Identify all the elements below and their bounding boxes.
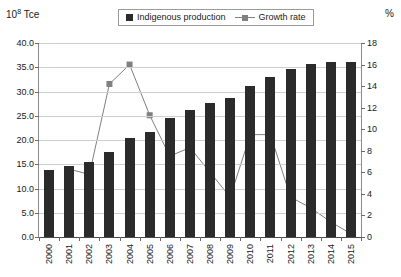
x-axis-tick-label: 2013 — [306, 244, 316, 264]
y-axis-right-tick-label: 10 — [367, 124, 377, 134]
x-axis-tick-label: 2006 — [165, 244, 175, 264]
y-axis-left-tick-label: 0.0 — [21, 232, 34, 242]
bar — [165, 118, 175, 237]
y-axis-right-tick-label: 4 — [367, 189, 372, 199]
y-axis-left-tick-label: 10.0 — [16, 184, 34, 194]
y-axis-left-tick-label: 25.0 — [16, 111, 34, 121]
x-axis-tick-mark — [361, 237, 362, 241]
y-axis-right-tick-label: 18 — [367, 38, 377, 48]
y-axis-left-tick-mark — [35, 67, 39, 68]
x-axis-tick-label: 2001 — [64, 244, 74, 264]
growth-rate-marker — [106, 81, 112, 87]
indigenous-production-chart: 108 Tce % Indigenous production Growth r… — [0, 0, 401, 277]
chart-legend: Indigenous production Growth rate — [118, 9, 314, 26]
y-axis-left-tick-label: 35.0 — [16, 62, 34, 72]
y-axis-right-tick-label: 8 — [367, 146, 372, 156]
y-axis-right-tick-label: 0 — [367, 232, 372, 242]
plot-area: 0.05.010.015.020.025.030.035.040.0024681… — [38, 43, 362, 238]
x-axis-tick-label: 2007 — [185, 244, 195, 264]
x-axis-tick-mark — [240, 237, 241, 241]
y-axis-right-tick-mark — [361, 172, 365, 173]
legend-item-indigenous-production: Indigenous production — [126, 13, 226, 22]
bar — [306, 64, 316, 237]
y-axis-right-tick-mark — [361, 86, 365, 87]
gridline — [39, 43, 361, 44]
y-axis-right-tick-label: 14 — [367, 81, 377, 91]
y-axis-left-tick-mark — [35, 116, 39, 117]
bar — [145, 132, 155, 237]
y-axis-left-tick-mark — [35, 213, 39, 214]
y-axis-right-tick-label: 16 — [367, 60, 377, 70]
y-axis-left-tick-mark — [35, 189, 39, 190]
y-axis-left-tick-label: 20.0 — [16, 135, 34, 145]
x-axis-tick-mark — [99, 237, 100, 241]
x-axis-tick-label: 2014 — [326, 244, 336, 264]
x-axis-tick-mark — [160, 237, 161, 241]
y-axis-left-tick-mark — [35, 140, 39, 141]
y-axis-right-tick-label: 12 — [367, 103, 377, 113]
x-axis-tick-label: 2011 — [265, 244, 275, 263]
y-axis-left-tick-label: 15.0 — [16, 159, 34, 169]
left-axis-unit-base: 10 — [6, 9, 17, 20]
x-axis-tick-label: 2000 — [44, 244, 54, 264]
bar — [225, 98, 235, 237]
y-axis-left-tick-label: 30.0 — [16, 87, 34, 97]
y-axis-right-tick-mark — [361, 129, 365, 130]
x-axis-tick-mark — [321, 237, 322, 241]
bar — [44, 170, 54, 237]
x-axis-tick-label: 2004 — [125, 244, 135, 264]
y-axis-left-tick-label: 40.0 — [16, 38, 34, 48]
bar — [205, 103, 215, 237]
x-axis-tick-label: 2009 — [225, 244, 235, 264]
bar-swatch-icon — [126, 14, 133, 21]
y-axis-left-tick-mark — [35, 164, 39, 165]
line-swatch-icon — [235, 14, 255, 21]
legend-label-indigenous-production: Indigenous production — [137, 13, 226, 22]
x-axis-tick-mark — [79, 237, 80, 241]
x-axis-tick-mark — [200, 237, 201, 241]
x-axis-tick-mark — [59, 237, 60, 241]
x-axis-tick-mark — [260, 237, 261, 241]
right-axis-unit-label: % — [385, 8, 394, 19]
bar — [185, 110, 195, 237]
y-axis-left-tick-label: 5.0 — [21, 208, 34, 218]
x-axis-tick-mark — [140, 237, 141, 241]
x-axis-tick-label: 2008 — [205, 244, 215, 264]
y-axis-left-tick-mark — [35, 92, 39, 93]
x-axis-tick-label: 2002 — [84, 244, 94, 264]
x-axis-tick-mark — [341, 237, 342, 241]
x-axis-tick-label: 2003 — [104, 244, 114, 264]
legend-item-growth-rate: Growth rate — [235, 13, 306, 22]
y-axis-right-tick-mark — [361, 65, 365, 66]
x-axis-tick-mark — [301, 237, 302, 241]
left-axis-unit-suffix: Tce — [21, 9, 39, 20]
bar — [346, 62, 356, 237]
bar — [84, 162, 94, 237]
y-axis-right-tick-mark — [361, 151, 365, 152]
bar — [326, 62, 336, 237]
bar — [64, 166, 74, 237]
y-axis-right-tick-mark — [361, 194, 365, 195]
left-axis-unit-label: 108 Tce — [6, 8, 39, 20]
y-axis-right-tick-mark — [361, 43, 365, 44]
bar — [125, 138, 135, 237]
x-axis-tick-mark — [39, 237, 40, 241]
x-axis-tick-label: 2005 — [145, 244, 155, 264]
y-axis-right-tick-mark — [361, 215, 365, 216]
x-axis-tick-label: 2012 — [286, 244, 296, 264]
x-axis-tick-mark — [180, 237, 181, 241]
bar — [286, 69, 296, 237]
x-axis-tick-mark — [220, 237, 221, 241]
y-axis-left-tick-mark — [35, 43, 39, 44]
y-axis-right-tick-mark — [361, 108, 365, 109]
x-axis-tick-mark — [120, 237, 121, 241]
x-axis-tick-label: 2015 — [346, 244, 356, 264]
bar — [104, 152, 114, 237]
bar — [245, 86, 255, 237]
y-axis-right-tick-label: 2 — [367, 210, 372, 220]
x-axis-tick-mark — [281, 237, 282, 241]
legend-label-growth-rate: Growth rate — [259, 13, 306, 22]
bar — [265, 77, 275, 237]
y-axis-right-tick-label: 6 — [367, 167, 372, 177]
x-axis-tick-label: 2010 — [245, 244, 255, 264]
